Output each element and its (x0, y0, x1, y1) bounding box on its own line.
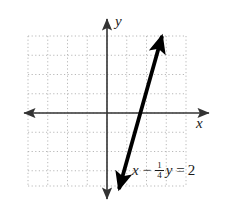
fraction-numerator: 1 (155, 161, 164, 170)
equation-right-hand-side: 2 (188, 163, 196, 178)
y-axis-label: y (115, 14, 122, 29)
fraction-denominator: 4 (155, 170, 164, 180)
equation-variable-y: y (165, 163, 174, 178)
x-axis-label: x (196, 116, 203, 131)
equation-minus-operator: − (140, 163, 154, 178)
graph-figure: y x x − 1 4 y = 2 (0, 0, 226, 220)
coordinate-plot (0, 0, 226, 220)
equation-fraction: 1 4 (155, 161, 164, 180)
equation-variable-x: x (131, 163, 140, 178)
equation-equals-sign: = (173, 163, 187, 178)
equation-label: x − 1 4 y = 2 (131, 161, 195, 180)
